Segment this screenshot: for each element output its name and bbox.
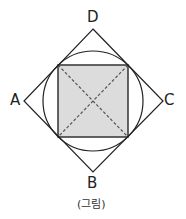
label-c: C <box>164 93 174 108</box>
label-a: A <box>10 93 20 108</box>
figure-caption: (그림) <box>77 199 106 210</box>
label-d: D <box>87 10 99 25</box>
label-b: B <box>87 176 97 191</box>
